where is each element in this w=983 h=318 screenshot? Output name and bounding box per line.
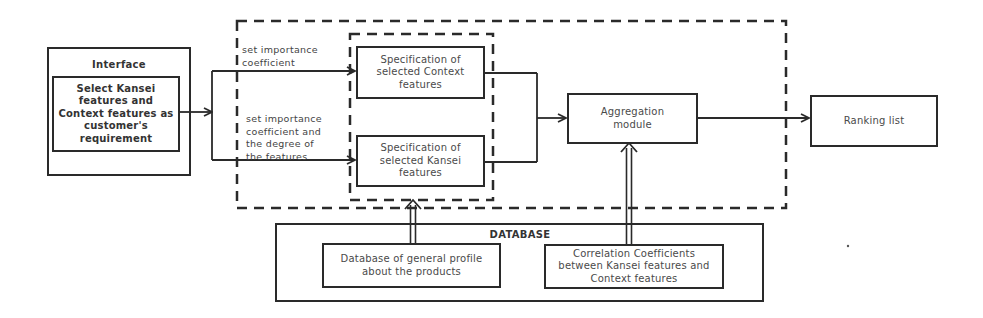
context-spec-label: Specification of selected Context featur… bbox=[368, 54, 473, 92]
ranking-list-node[interactable]: Ranking list bbox=[810, 95, 938, 147]
context-spec-node[interactable]: Specification of selected Context featur… bbox=[356, 46, 485, 99]
customer-requirement-node[interactable]: Select Kansei features and Context featu… bbox=[52, 76, 180, 152]
general-profile-db-node[interactable]: Database of general profile about the pr… bbox=[322, 243, 501, 288]
interface-group-title: Interface bbox=[47, 59, 191, 70]
stray-dot bbox=[847, 245, 849, 247]
customer-requirement-label: Select Kansei features and Context featu… bbox=[58, 83, 174, 146]
aggregation-node[interactable]: Aggregation module bbox=[567, 93, 698, 144]
edge-label-importance: set importance coefficient bbox=[242, 44, 318, 69]
kansei-spec-node[interactable]: Specification of selected Kansei feature… bbox=[356, 135, 485, 187]
database-group-title: DATABASE bbox=[470, 229, 570, 240]
correlation-coefficients-node[interactable]: Correlation Coefficients between Kansei … bbox=[544, 244, 724, 289]
correlation-coefficients-label: Correlation Coefficients between Kansei … bbox=[550, 248, 718, 286]
ranking-list-label: Ranking list bbox=[844, 115, 905, 128]
general-profile-db-label: Database of general profile about the pr… bbox=[330, 253, 493, 278]
edge-label-importance-degree: set importance coefficient and the degre… bbox=[246, 113, 322, 163]
aggregation-label: Aggregation module bbox=[599, 106, 666, 131]
kansei-spec-label: Specification of selected Kansei feature… bbox=[368, 142, 473, 180]
